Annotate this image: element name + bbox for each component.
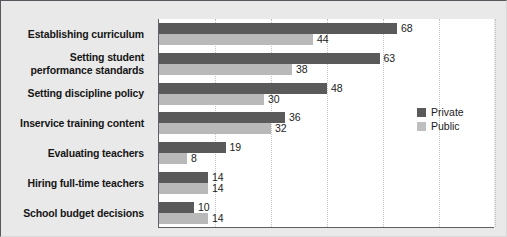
category-label-line2: performance standards — [30, 64, 144, 76]
table-row: 6338 — [159, 49, 494, 79]
bar-public — [159, 64, 292, 75]
bar-public — [159, 183, 208, 194]
bar-value-label: 19 — [230, 142, 242, 153]
bar-group-private: 19 — [159, 142, 494, 153]
legend-entry[interactable]: Public — [417, 121, 464, 132]
table-row: 6844 — [159, 19, 494, 49]
legend-label: Private — [431, 107, 464, 118]
bar-group-public: 30 — [159, 94, 494, 105]
legend-entry[interactable]: Private — [417, 107, 464, 118]
legend-label: Public — [431, 121, 460, 132]
chart-figure: Establishing curriculumSetting studentpe… — [0, 0, 507, 237]
category-label: School budget decisions — [1, 207, 144, 220]
bar-value-label: 36 — [289, 112, 301, 123]
table-row: 4830 — [159, 79, 494, 109]
bar-group-private: 14 — [159, 172, 494, 183]
chart-legend: PrivatePublic — [417, 107, 464, 132]
bar-value-label: 63 — [384, 53, 396, 64]
bar-public — [159, 123, 271, 134]
category-axis-labels: Establishing curriculumSetting studentpe… — [1, 19, 151, 228]
bar-group-private: 10 — [159, 202, 494, 213]
bar-private — [159, 53, 380, 64]
bar-group-public: 8 — [159, 153, 494, 164]
bar-group-public: 14 — [159, 183, 494, 194]
legend-swatch-icon — [417, 122, 426, 131]
plot-area: 684463384830363219814141014 PrivatePubli… — [158, 19, 494, 228]
table-row: 1414 — [159, 168, 494, 198]
table-row: 198 — [159, 138, 494, 168]
bar-private — [159, 202, 194, 213]
gridline — [495, 19, 496, 227]
bar-value-label: 68 — [401, 23, 413, 34]
bar-public — [159, 153, 187, 164]
bar-value-label: 14 — [212, 213, 224, 224]
bar-value-label: 38 — [296, 64, 308, 75]
bar-public — [159, 213, 208, 224]
bar-value-label: 32 — [275, 123, 287, 134]
bar-value-label: 8 — [191, 153, 197, 164]
bar-group-public: 44 — [159, 34, 494, 45]
bar-private — [159, 172, 208, 183]
bar-value-label: 14 — [212, 183, 224, 194]
bar-value-label: 48 — [331, 83, 343, 94]
bar-private — [159, 83, 327, 94]
category-label: Setting studentperformance standards — [1, 51, 144, 76]
bar-group-private: 63 — [159, 53, 494, 64]
bar-group-public: 38 — [159, 64, 494, 75]
bar-group-public: 14 — [159, 213, 494, 224]
bar-value-label: 10 — [198, 202, 210, 213]
bar-public — [159, 34, 313, 45]
table-row: 1014 — [159, 198, 494, 228]
bar-value-label: 44 — [317, 34, 329, 45]
category-label: Hiring full-time teachers — [1, 177, 144, 190]
bar-private — [159, 112, 285, 123]
bar-private — [159, 23, 397, 34]
bar-group-private: 48 — [159, 83, 494, 94]
bar-value-label: 30 — [268, 94, 280, 105]
legend-swatch-icon — [417, 108, 426, 117]
category-label: Establishing curriculum — [1, 28, 144, 41]
bar-public — [159, 94, 264, 105]
category-label: Inservice training content — [1, 117, 144, 130]
category-label: Setting discipline policy — [1, 87, 144, 100]
category-label: Evaluating teachers — [1, 147, 144, 160]
